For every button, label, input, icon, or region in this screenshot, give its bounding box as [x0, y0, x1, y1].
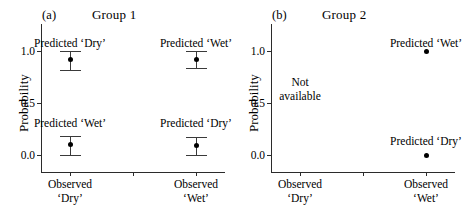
panel-b-xtick-1 [300, 172, 301, 176]
panel-a-xtick-2 [133, 172, 134, 176]
panel-b-plot-area: 1.0 0.5 0.0 Observed ‘Dry’ Observed ‘Wet… [271, 24, 455, 172]
panel-a-series-label-top-right: Predicted ‘Wet’ [146, 37, 246, 49]
panel-a-series-label-top-left: Predicted ‘Dry’ [20, 37, 120, 49]
panel-a-errorbar-cap-upper-bottom-right [186, 137, 207, 138]
panel-b-xtick-3 [426, 172, 427, 176]
figure-two-panel-probability: (a) Group 1 Probability 1.0 0.5 0.0 Obse… [0, 0, 468, 217]
panel-b-not-available-note: Not available [260, 76, 340, 104]
panel-a-errorbar-cap-upper-top-left [60, 51, 81, 52]
panel-b-point-bottom-right [424, 153, 429, 158]
panel-a-plot-area: 1.0 0.5 0.0 Observed ‘Dry’ Observed ‘Wet… [41, 24, 225, 172]
panel-a-series-label-bottom-right: Predicted ‘Dry’ [146, 117, 246, 129]
panel-a-xtick-label-dry-line1: Observed [30, 178, 110, 192]
panel-b-group-2: (b) Group 2 Probability 1.0 0.5 0.0 Obse… [234, 0, 468, 217]
panel-a-xtick-label-dry-line2: ‘Dry’ [30, 192, 110, 206]
panel-a-errorbar-cap-lower-bottom-left [60, 155, 81, 156]
panel-b-label: (b) [272, 8, 287, 23]
panel-b-ytick-label-1.0: 1.0 [233, 45, 265, 57]
panel-b-xtick-label-wet-line2: ‘Wet’ [386, 192, 466, 206]
panel-a-ytick-label-0.5: 0.5 [3, 97, 35, 109]
panel-a-ytick-0.5 [37, 103, 41, 104]
panel-b-xtick-label-wet-line1: Observed [386, 178, 466, 192]
panel-a-errorbar-cap-lower-bottom-right [186, 155, 207, 156]
panel-a-ytick-1.0 [37, 51, 41, 52]
panel-a-xtick-label-wet-line2: ‘Wet’ [156, 192, 236, 206]
panel-b-point-top-right [424, 49, 429, 54]
panel-a-point-top-left [68, 57, 73, 62]
panel-b-series-label-bottom-right: Predicted ‘Dry’ [376, 135, 468, 147]
panel-a-series-label-bottom-left: Predicted ‘Wet’ [20, 117, 120, 129]
panel-b-ytick-1.0 [267, 51, 271, 52]
panel-b-series-label-top-right: Predicted ‘Wet’ [376, 37, 468, 49]
panel-a-point-bottom-left [68, 142, 73, 147]
panel-a-xtick-3 [196, 172, 197, 176]
panel-b-xtick-2 [363, 172, 364, 176]
panel-b-ytick-label-0.0: 0.0 [233, 149, 265, 161]
panel-b-xtick-label-dry-line1: Observed [260, 178, 340, 192]
panel-a-title: Group 1 [92, 7, 136, 23]
panel-a-group-1: (a) Group 1 Probability 1.0 0.5 0.0 Obse… [0, 0, 234, 217]
panel-b-not-available-line2: available [260, 90, 340, 104]
panel-a-label: (a) [42, 8, 56, 23]
panel-b-ytick-0.0 [267, 155, 271, 156]
panel-b-title: Group 2 [322, 7, 366, 23]
panel-a-errorbar-cap-upper-top-right [186, 51, 207, 52]
panel-a-ytick-0.0 [37, 155, 41, 156]
panel-a-point-bottom-right [194, 143, 199, 148]
panel-a-errorbar-cap-upper-bottom-left [60, 136, 81, 137]
panel-a-xtick-label-wet: Observed ‘Wet’ [156, 178, 236, 205]
panel-a-ytick-label-0.0: 0.0 [3, 149, 35, 161]
panel-a-xtick-label-wet-line1: Observed [156, 178, 236, 192]
panel-b-xtick-label-dry: Observed ‘Dry’ [260, 178, 340, 205]
panel-a-xtick-label-dry: Observed ‘Dry’ [30, 178, 110, 205]
panel-b-xtick-label-dry-line2: ‘Dry’ [260, 192, 340, 206]
panel-a-errorbar-cap-lower-top-right [186, 68, 207, 69]
panel-a-errorbar-cap-lower-top-left [60, 70, 81, 71]
panel-b-xtick-label-wet: Observed ‘Wet’ [386, 178, 466, 205]
panel-a-xtick-1 [70, 172, 71, 176]
panel-a-point-top-right [194, 57, 199, 62]
panel-b-not-available-line1: Not [260, 76, 340, 90]
